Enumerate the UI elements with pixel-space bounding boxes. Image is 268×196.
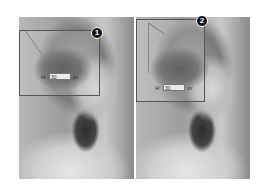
photo-panel-step-2: H: 30 px — [136, 17, 250, 179]
step-badge-2: 2 — [196, 15, 208, 27]
height-field[interactable]: H: 30 px — [155, 83, 192, 92]
height-input[interactable]: 30 — [163, 84, 185, 91]
height-input[interactable]: 30 — [49, 73, 71, 80]
height-field[interactable]: H: 30 px — [41, 72, 78, 81]
unit-label: px — [187, 85, 192, 91]
height-label: H: — [41, 74, 47, 80]
step-badge-1: 1 — [91, 27, 103, 39]
photo-panel-step-1: H: 30 px — [19, 17, 134, 179]
unit-label: px — [73, 74, 78, 80]
height-label: H: — [155, 85, 161, 91]
guide-line — [148, 23, 149, 73]
